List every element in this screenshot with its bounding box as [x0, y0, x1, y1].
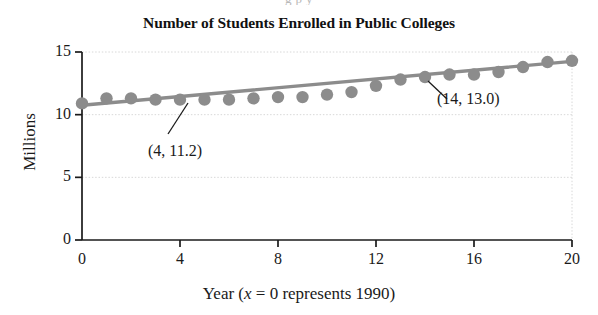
x-tick-label: 16	[454, 250, 494, 268]
data-point-marker	[198, 93, 210, 105]
data-point-marker	[443, 68, 455, 80]
data-point-marker	[149, 93, 161, 105]
point-annotation-label: (4, 11.2)	[148, 142, 202, 160]
x-tick-label: 0	[62, 250, 102, 268]
x-tick-label: 4	[160, 250, 200, 268]
data-point-marker	[223, 93, 235, 105]
x-axis-title: Year (x = 0 represents 1990)	[0, 284, 598, 304]
point-annotation-label: (14, 13.0)	[437, 90, 500, 108]
data-point-marker	[345, 86, 357, 98]
chart-figure: g p y Number of Students Enrolled in Pub…	[0, 0, 598, 315]
data-point-marker	[125, 92, 137, 104]
y-tick-label: 10	[37, 105, 71, 123]
data-point-marker	[247, 92, 259, 104]
data-point-marker	[76, 97, 88, 109]
data-point-marker	[370, 80, 382, 92]
x-tick-label: 8	[258, 250, 298, 268]
x-axis-title-suffix: = 0 represents 1990)	[252, 284, 396, 303]
data-point-marker	[566, 55, 578, 67]
data-point-marker	[492, 66, 504, 78]
y-tick-label: 15	[37, 42, 71, 60]
data-point-marker	[321, 88, 333, 100]
data-point-marker	[517, 61, 529, 73]
data-point-marker	[541, 56, 553, 68]
x-axis-title-prefix: Year (	[203, 284, 244, 303]
data-point-marker	[468, 68, 480, 80]
data-point-marker	[174, 93, 186, 105]
annotation-leader-line	[168, 103, 188, 134]
x-tick-label: 12	[356, 250, 396, 268]
x-tick-label: 20	[552, 250, 592, 268]
data-point-marker	[100, 92, 112, 104]
y-tick-label: 5	[37, 167, 71, 185]
data-point-marker	[394, 73, 406, 85]
data-point-marker	[296, 91, 308, 103]
x-axis-title-variable: x	[244, 284, 252, 303]
annotation-leader-lines	[168, 81, 447, 134]
data-point-marker	[272, 91, 284, 103]
y-tick-label: 0	[37, 230, 71, 248]
